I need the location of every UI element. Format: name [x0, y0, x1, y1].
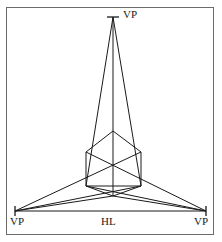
- cube-edge-top-front-to-top-right: [113, 131, 141, 152]
- line-vpleft-to-cube-bottom-front: [15, 196, 113, 211]
- horizon-line-label: HL: [101, 216, 116, 227]
- line-vpright-to-cube-top-left: [86, 152, 206, 211]
- line-vpleft-to-cube-bottom-right: [15, 186, 141, 211]
- perspective-figure: VP VP VP HL: [0, 0, 222, 242]
- cube-edge-top-front-to-top-left: [86, 131, 113, 152]
- line-vptop-to-bottom-right: [113, 17, 141, 186]
- vanishing-point-left-label: VP: [10, 216, 24, 227]
- line-vptop-to-bottom-left: [86, 17, 113, 186]
- line-vpright-to-cube-bottom-front: [113, 196, 206, 211]
- vanishing-point-right-label: VP: [194, 216, 208, 227]
- line-vpleft-to-cube-top-right: [15, 152, 141, 211]
- line-vpright-to-cube-bottom-left: [86, 186, 206, 211]
- perspective-drawing-canvas: [0, 0, 222, 242]
- vanishing-point-top-label: VP: [123, 9, 137, 20]
